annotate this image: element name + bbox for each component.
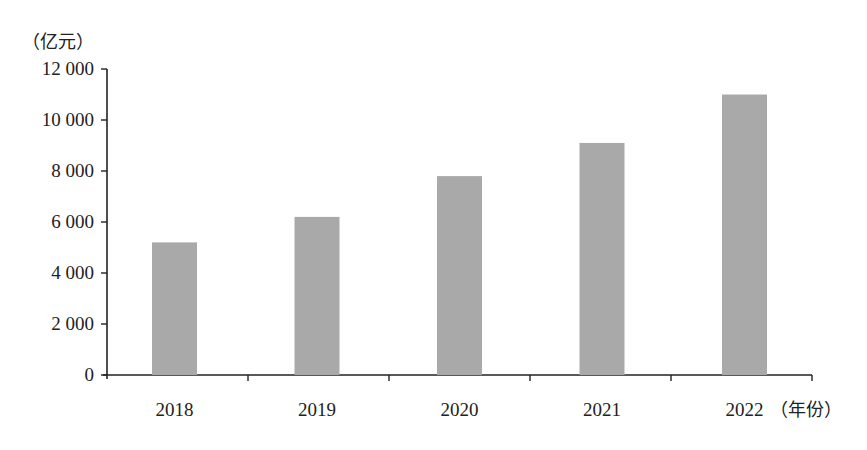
y-axis-unit-label: （亿元） [22,31,94,52]
x-tick-label: 2019 [298,399,336,420]
bar-2018 [152,242,197,375]
y-tick-label: 8 000 [51,160,94,181]
x-tick-label: 2021 [583,399,621,420]
x-tick-label: 2022 [726,399,764,420]
bar-2020 [437,176,482,375]
bar-2019 [295,217,340,375]
y-tick-label: 12 000 [42,58,94,79]
x-axis-unit-label: （年份） [770,399,842,420]
y-tick-label: 6 000 [51,211,94,232]
y-tick-label: 0 [85,364,95,385]
bars-group [152,95,767,376]
bar-2022 [722,95,767,376]
y-axis: 02 0004 0006 0008 00010 00012 000 [42,58,107,385]
x-tick-label: 2018 [156,399,194,420]
y-tick-label: 2 000 [51,313,94,334]
y-tick-label: 4 000 [51,262,94,283]
bar-chart: （亿元） 02 0004 0006 0008 00010 00012 000 2… [0,0,867,450]
x-tick-label: 2020 [441,399,479,420]
x-axis-labels: 20182019202020212022 [156,399,764,420]
y-tick-label: 10 000 [42,109,94,130]
x-axis [103,375,812,381]
bar-2021 [580,143,625,375]
